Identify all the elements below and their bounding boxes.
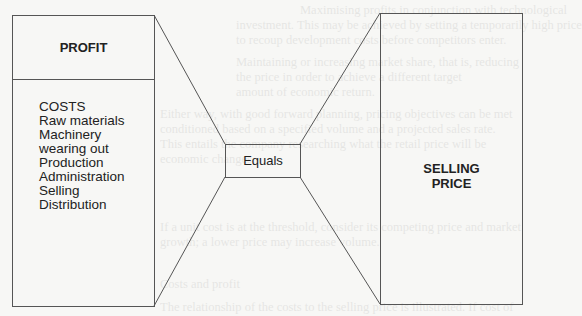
box-divider <box>13 79 154 80</box>
connector-bottom-right <box>300 177 380 304</box>
equals-label: Equals <box>226 153 300 168</box>
connector-bottom-left <box>154 177 225 306</box>
cost-item: Production <box>39 156 125 170</box>
selling-price-box: SELLING PRICE <box>380 13 523 305</box>
profit-label: PROFIT <box>13 40 154 55</box>
cost-item: Raw materials <box>39 114 125 128</box>
selling-price-label: SELLING PRICE <box>381 161 522 191</box>
selling-label: SELLING <box>381 161 522 176</box>
costs-title: COSTS <box>39 100 125 114</box>
connector-top-left <box>154 15 225 144</box>
equals-box: Equals <box>225 144 301 178</box>
cost-item: Distribution <box>39 198 125 212</box>
cost-item: wearing out <box>39 142 125 156</box>
profit-costs-box: PROFIT COSTS Raw materials Machinery wea… <box>12 15 155 307</box>
cost-item: Machinery <box>39 128 125 142</box>
price-label: PRICE <box>381 176 522 191</box>
connector-top-right <box>300 13 380 144</box>
cost-item: Administration <box>39 170 125 184</box>
cost-item: Selling <box>39 184 125 198</box>
costs-list: COSTS Raw materials Machinery wearing ou… <box>39 100 125 212</box>
